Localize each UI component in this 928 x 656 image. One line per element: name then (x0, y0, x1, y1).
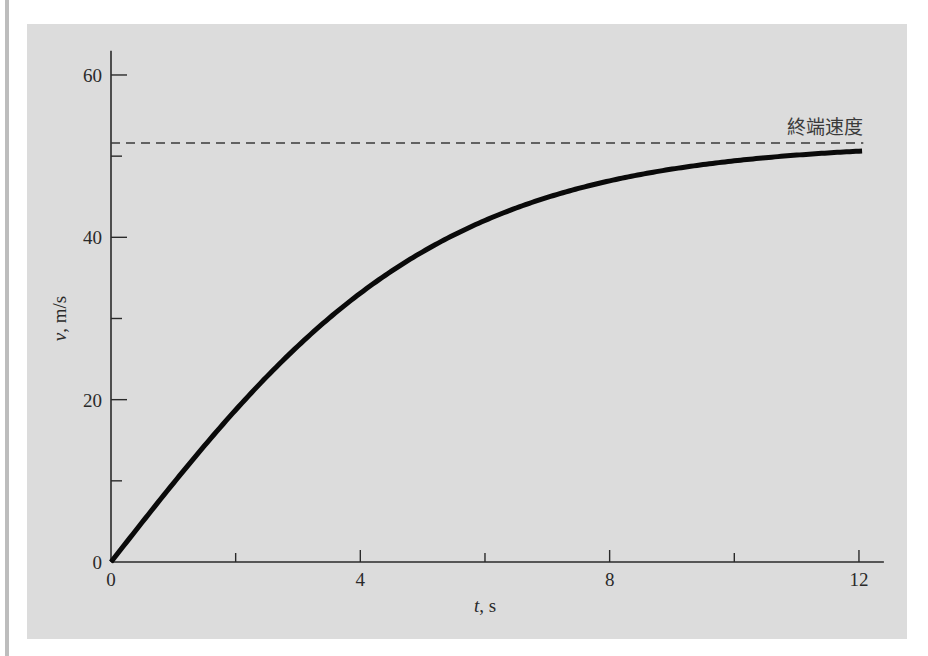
y-tick-label: 20 (83, 390, 102, 411)
y-axis-label: v, m/s (49, 296, 70, 341)
axes (111, 51, 884, 562)
x-axis-label-unit: , s (479, 595, 496, 616)
axis-ticks (111, 75, 859, 562)
velocity-curve (111, 151, 862, 562)
y-tick-label: 60 (83, 65, 102, 86)
y-tick-label: 40 (83, 227, 102, 248)
x-axis-label: t, s (474, 595, 496, 616)
y-tick-label: 0 (93, 552, 103, 573)
terminal-velocity-annotation: 終端速度 (787, 116, 863, 138)
x-tick-label: 4 (356, 569, 366, 590)
x-tick-label: 12 (849, 569, 868, 590)
velocity-chart: 048120204060 終端速度 t, s v, m/s (0, 0, 928, 656)
y-axis-label-unit: , m/s (49, 296, 70, 333)
axis-tick-labels: 048120204060 (83, 65, 868, 590)
x-tick-label: 8 (605, 569, 615, 590)
x-tick-label: 0 (106, 569, 116, 590)
